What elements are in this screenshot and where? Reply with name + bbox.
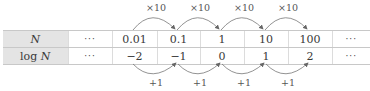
plus-arrow-icon	[133, 63, 176, 74]
times-ten-label: ×10	[190, 2, 210, 13]
times-ten-label: ×10	[278, 2, 298, 13]
plus-one-label: +1	[281, 77, 295, 88]
times-ten-label: ×10	[146, 2, 166, 13]
plus-one-label: +1	[237, 77, 251, 88]
arrow-arcs	[0, 0, 370, 91]
multiply-arrow-icon	[221, 18, 263, 30]
log-table-figure: N ··· 0.01 0.1 1 10 100 ··· log N ··· −2…	[0, 0, 370, 91]
times-ten-label: ×10	[234, 2, 254, 13]
plus-arrow-icon	[266, 63, 308, 74]
plus-arrow-icon	[178, 63, 220, 74]
multiply-arrow-icon	[265, 18, 307, 30]
multiply-arrow-icon	[177, 18, 219, 30]
multiply-arrow-icon	[133, 18, 175, 30]
plus-one-label: +1	[193, 77, 207, 88]
plus-arrow-icon	[222, 63, 264, 74]
plus-one-label: +1	[149, 77, 163, 88]
